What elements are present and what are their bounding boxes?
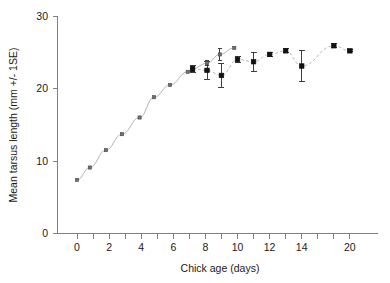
data-point-marker — [75, 178, 78, 181]
data-point-marker — [219, 73, 224, 78]
data-point-marker — [348, 49, 353, 54]
x-tick-label: 14 — [296, 241, 308, 253]
data-point-marker — [104, 149, 107, 152]
x-axis-ticks: 0246810121420 — [74, 234, 356, 254]
data-point-marker — [299, 64, 304, 69]
data-point-marker — [205, 68, 210, 73]
chart-series-markers — [75, 43, 352, 181]
chart-figure: 0102030 0246810121420 Chick age (days) M… — [0, 0, 390, 283]
x-tick-label: 10 — [232, 241, 244, 253]
x-tick-label: 4 — [138, 241, 144, 253]
y-tick-label: 10 — [36, 155, 48, 167]
data-point-marker — [218, 53, 221, 56]
data-point-marker — [152, 96, 155, 99]
data-point-marker — [88, 166, 91, 169]
chart-series-lines — [77, 46, 350, 180]
series-line — [77, 48, 234, 180]
data-point-marker — [168, 83, 171, 86]
series-line — [193, 46, 350, 76]
data-point-marker — [283, 49, 288, 54]
data-point-marker — [233, 46, 236, 49]
x-tick-label: 8 — [202, 241, 208, 253]
y-tick-label: 20 — [36, 82, 48, 94]
x-tick-label: 2 — [106, 241, 112, 253]
y-axis-title: Mean tarsus length (mm +/- 1SE) — [7, 48, 19, 203]
data-point-marker — [251, 59, 256, 64]
x-tick-label: 20 — [344, 241, 356, 253]
x-tick-label: 6 — [170, 241, 176, 253]
data-point-marker — [235, 57, 240, 62]
data-point-marker — [190, 67, 195, 72]
x-tick-label: 12 — [264, 241, 276, 253]
x-axis-title: Chick age (days) — [181, 262, 260, 274]
y-axis-ticks: 0102030 — [36, 10, 57, 240]
data-point-marker — [120, 133, 123, 136]
y-tick-label: 30 — [36, 10, 48, 22]
data-point-marker — [332, 43, 337, 48]
data-point-marker — [186, 70, 189, 73]
y-tick-label: 0 — [42, 227, 48, 239]
tarsus-growth-chart: 0102030 0246810121420 Chick age (days) M… — [0, 0, 390, 283]
chart-error-bars — [190, 44, 353, 87]
data-point-marker — [267, 52, 272, 57]
data-point-marker — [138, 116, 141, 119]
x-tick-label: 0 — [74, 241, 80, 253]
data-point-marker — [205, 62, 208, 65]
